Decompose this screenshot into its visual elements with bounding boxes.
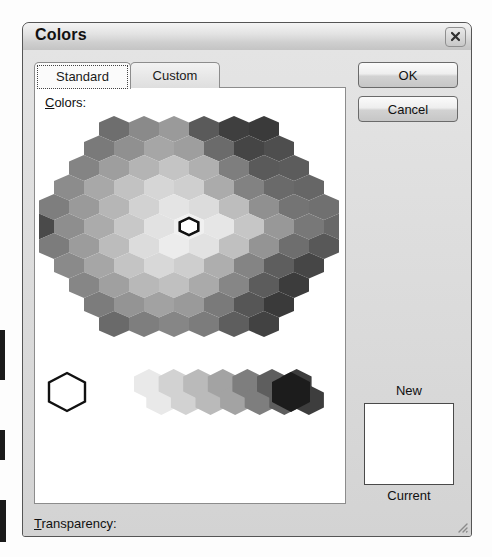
colors-label-rest: olors: [54, 95, 86, 110]
dialog-title: Colors [35, 26, 87, 44]
cancel-button-label: Cancel [388, 102, 428, 117]
white-swatch[interactable] [49, 373, 85, 411]
tab-custom-label: Custom [153, 68, 198, 83]
preview-swatch [364, 403, 454, 485]
close-icon[interactable] [445, 27, 466, 47]
tab-standard[interactable]: Standard [34, 62, 131, 89]
transparency-spinner[interactable]: 0 % [268, 536, 357, 537]
hex-selection-icon [180, 218, 199, 235]
transparency-label-rest: ransparency: [41, 516, 116, 531]
page-edge-mark-left [0, 330, 5, 380]
cancel-button[interactable]: Cancel [358, 96, 458, 122]
tab-custom[interactable]: Custom [130, 62, 220, 88]
resize-grip-icon[interactable] [455, 520, 468, 533]
ok-button[interactable]: OK [358, 62, 458, 88]
dialog-titlebar[interactable]: Colors [23, 23, 471, 51]
screenshot-root: Colors Standard Custom [0, 0, 492, 557]
colors-label: Colors: [45, 95, 86, 110]
tabstrip: Standard Custom [34, 62, 344, 88]
ok-button-label: OK [399, 68, 418, 83]
grayscale-swatch-row[interactable] [39, 366, 339, 418]
colors-label-accel: C [45, 95, 54, 110]
tab-focus-rect [37, 65, 128, 89]
colors-panel: Colors: [34, 87, 346, 504]
color-hex-wheel[interactable] [39, 114, 339, 364]
preview-new-label: New [360, 383, 458, 398]
dialog-body: Standard Custom Colors: Transparen [23, 50, 471, 536]
colors-dialog: Colors Standard Custom [22, 22, 472, 537]
page-edge-mark-left-2 [0, 430, 5, 460]
color-preview: New Current [360, 383, 458, 503]
transparency-label: Transparency: [34, 516, 117, 531]
page-edge-mark-left-3 [0, 500, 6, 542]
preview-current-label: Current [360, 488, 458, 503]
